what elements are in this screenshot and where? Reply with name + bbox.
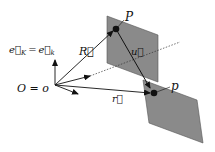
label-R: R⃗ bbox=[78, 45, 94, 58]
label-P: P bbox=[124, 10, 134, 24]
label-origin: O = o bbox=[17, 82, 49, 95]
vector-r bbox=[55, 85, 150, 93]
label-p: p bbox=[171, 79, 179, 93]
diagram-canvas: P p R⃗ u⃗ r⃗ O = o e⃗K=e⃗k bbox=[0, 0, 215, 152]
label-u: u⃗ bbox=[131, 46, 143, 57]
label-r: r⃗ bbox=[112, 93, 123, 104]
vector-R bbox=[55, 31, 113, 85]
label-basis-e-K: e⃗K=e⃗k bbox=[9, 44, 55, 57]
